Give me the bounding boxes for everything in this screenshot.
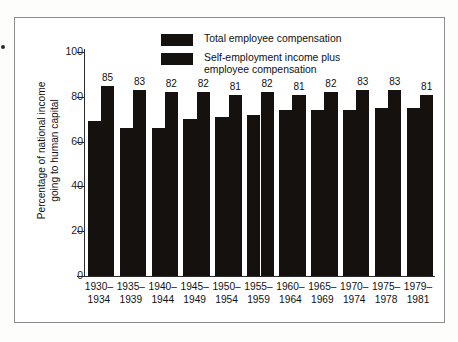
scan-artifact-dot <box>1 45 5 49</box>
y-axis-title-line-2: going to human capital <box>48 56 61 246</box>
bar-series-2 <box>292 95 305 276</box>
x-axis-label: 1975– 1978 <box>370 280 402 306</box>
x-axis-labels: 1930– 19341935– 19391940– 19441945– 1949… <box>84 280 435 320</box>
x-axis-label: 1955– 1959 <box>243 280 275 306</box>
x-axis-label: 1960– 1964 <box>274 280 306 306</box>
bar-series-2 <box>133 90 146 276</box>
x-axis-label: 1979– 1981 <box>402 280 434 306</box>
y-tick-label-60: 60 <box>71 136 83 146</box>
x-axis-label: 1970– 1974 <box>338 280 370 306</box>
bar-series-1 <box>311 110 324 276</box>
bar-series-2 <box>356 90 369 276</box>
bar-group <box>407 49 433 276</box>
figure-frame: Total employee compensation Self-employm… <box>14 17 445 323</box>
x-axis-label: 1945– 1949 <box>179 280 211 306</box>
plot-area: Total employee compensation Self-employm… <box>15 18 446 324</box>
bar-group <box>120 49 146 276</box>
bar-group <box>247 49 273 276</box>
bar-series-1 <box>343 110 356 276</box>
bar-series-1 <box>120 128 133 276</box>
y-tick-label-20: 20 <box>71 225 83 235</box>
bar-series-1 <box>407 108 420 276</box>
bar-group <box>88 49 114 276</box>
bar-series-2 <box>197 92 210 276</box>
bar-group <box>183 49 209 276</box>
bar-series-1 <box>152 128 165 276</box>
bar-series-2 <box>324 92 337 276</box>
legend-item-total-employee-compensation: Total employee compensation <box>161 33 341 46</box>
bar-series-2 <box>165 92 178 276</box>
legend-swatch-series-1 <box>161 34 193 46</box>
y-axis-title-line-1: Percentage of national income <box>36 56 49 246</box>
y-axis-title: Percentage of national income going to h… <box>36 56 61 246</box>
y-tick-label-0: 0 <box>77 270 83 280</box>
bar-series-2 <box>261 92 274 276</box>
bar-series-1 <box>215 117 228 276</box>
x-axis-label: 1935– 1939 <box>115 280 147 306</box>
y-tick-label-100: 100 <box>65 46 83 56</box>
bar-series-1 <box>88 121 101 276</box>
y-tick-label-80: 80 <box>71 91 83 101</box>
bar-group <box>343 49 369 276</box>
bar-group <box>311 49 337 276</box>
bar-series-1 <box>375 108 388 276</box>
bar-group <box>279 49 305 276</box>
bar-series-2 <box>229 95 242 276</box>
bar-group <box>152 49 178 276</box>
x-axis-label: 1950– 1954 <box>211 280 243 306</box>
bar-group <box>375 49 401 276</box>
bar-series-2 <box>420 95 433 276</box>
x-axis-label: 1940– 1944 <box>147 280 179 306</box>
x-axis-label: 1965– 1969 <box>306 280 338 306</box>
bar-series-group: 8583828281828182838381 <box>84 49 435 276</box>
legend-label-series-1: Total employee compensation <box>204 33 341 45</box>
bar-series-1 <box>183 119 196 276</box>
x-axis-line <box>84 276 435 277</box>
bar-series-1 <box>279 110 292 276</box>
bar-series-2 <box>388 90 401 276</box>
y-tick-label-40: 40 <box>71 180 83 190</box>
bar-series-2 <box>101 86 114 276</box>
x-axis-label: 1930– 1934 <box>83 280 115 306</box>
chart-page: Total employee compensation Self-employm… <box>0 0 458 342</box>
bar-series-1 <box>247 115 260 276</box>
bar-group <box>215 49 241 276</box>
